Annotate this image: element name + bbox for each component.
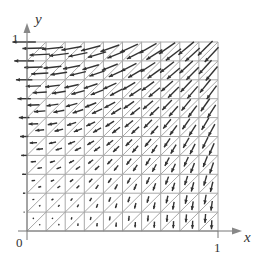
grid-diagonal — [27, 212, 46, 231]
grid-diagonal — [103, 174, 122, 193]
grid-diagonal — [46, 42, 65, 61]
arrow-head — [17, 97, 21, 101]
grid-diagonal — [46, 99, 65, 118]
arrow-head — [16, 78, 20, 82]
arrow-head — [19, 116, 23, 120]
arrow-head — [14, 59, 18, 63]
grid-diagonal — [103, 80, 122, 99]
arrow-head — [100, 49, 104, 52]
x-axis-label: x — [244, 230, 251, 245]
grid-diagonal — [27, 61, 46, 80]
grid-diagonal — [123, 193, 142, 212]
grid-diagonal — [46, 174, 65, 193]
grid-diagonal — [142, 42, 161, 61]
grid-diagonal — [65, 118, 84, 137]
grid-diagonal — [180, 137, 199, 156]
grid-diagonal — [46, 155, 65, 174]
y-axis-arrowhead — [24, 23, 31, 33]
grid-diagonal — [84, 212, 103, 231]
grid-diagonal — [46, 212, 65, 231]
grid-diagonal — [46, 80, 65, 99]
grid-diagonal — [65, 155, 84, 174]
grid-diagonal — [142, 155, 161, 174]
arrow-head — [56, 148, 59, 151]
grid-diagonal — [103, 61, 122, 80]
grid-diagonal — [199, 118, 218, 137]
grid-diagonal — [27, 137, 46, 156]
grid-diagonal — [27, 155, 46, 174]
grid-diagonal — [142, 212, 161, 231]
grid-diagonal — [103, 212, 122, 231]
grid-diagonal — [103, 193, 122, 212]
grid-diagonal — [46, 61, 65, 80]
grid-diagonal — [161, 174, 180, 193]
arrow-head — [210, 225, 214, 229]
grid-diagonal — [46, 193, 65, 212]
grid-diagonal — [180, 155, 199, 174]
grid-diagonal — [27, 80, 46, 99]
arrow-head — [20, 135, 24, 138]
grid-diagonal — [123, 155, 142, 174]
arrow-head — [30, 141, 33, 144]
grid-diagonal — [103, 99, 122, 118]
grid-diagonal — [199, 193, 218, 212]
grid-diagonal — [65, 137, 84, 156]
arrow-dot — [39, 224, 41, 226]
grid-diagonal — [180, 212, 199, 231]
arrow-head — [67, 122, 71, 125]
arrow-head — [203, 163, 206, 167]
arrow-head — [172, 187, 175, 191]
grid-diagonal — [84, 193, 103, 212]
arrow-head — [73, 110, 77, 113]
grid-diagonal — [199, 174, 218, 193]
grid-diagonal — [84, 118, 103, 137]
grid-diagonal — [103, 155, 122, 174]
grid-diagonal — [27, 174, 46, 193]
grid-diagonal — [65, 193, 84, 212]
grid-diagonal — [123, 174, 142, 193]
x-axis-arrowhead — [232, 228, 242, 235]
grid-diagonal — [180, 174, 199, 193]
arrow-head — [209, 169, 212, 173]
arrow-head — [172, 225, 175, 228]
grid-diagonal — [27, 118, 46, 137]
x-tick-label: 1 — [214, 241, 221, 254]
arrow-head — [27, 103, 31, 107]
arrow-head — [203, 219, 207, 223]
grid-diagonal — [199, 137, 218, 156]
grid-diagonal — [84, 155, 103, 174]
grid-diagonal — [180, 193, 199, 212]
grid-diagonal — [27, 42, 46, 61]
y-tick-label: 1 — [12, 32, 19, 45]
arrow-dot — [33, 218, 35, 220]
grid-diagonal — [65, 99, 84, 118]
grid-diagonal — [65, 174, 84, 193]
grid-diagonal — [161, 137, 180, 156]
grid-diagonal — [84, 137, 103, 156]
grid-diagonal — [103, 137, 122, 156]
arrow-head — [153, 187, 156, 191]
grid-diagonal — [161, 212, 180, 231]
arrow-head — [165, 180, 168, 184]
grid-diagonal — [27, 193, 46, 212]
arrow-head — [24, 66, 28, 70]
grid-diagonal — [103, 42, 122, 61]
arrow-head — [153, 225, 156, 228]
grid-diagonal — [142, 174, 161, 193]
grid-diagonal — [65, 61, 84, 80]
arrow-head — [22, 47, 26, 51]
grid-diagonal — [65, 212, 84, 231]
grid-diagonal — [46, 118, 65, 137]
grid-diagonal — [65, 80, 84, 99]
grid-diagonal — [46, 137, 65, 156]
grid-diagonal — [161, 193, 180, 212]
grid-diagonal — [199, 212, 218, 231]
grid-diagonal — [84, 174, 103, 193]
arrow-head — [185, 219, 188, 223]
y-axis-label: y — [35, 12, 42, 27]
arrow-head — [21, 154, 24, 156]
grid-diagonal — [161, 155, 180, 174]
grid-diagonal — [199, 155, 218, 174]
grid-diagonal — [27, 99, 46, 118]
vector-field-figure — [0, 0, 263, 262]
